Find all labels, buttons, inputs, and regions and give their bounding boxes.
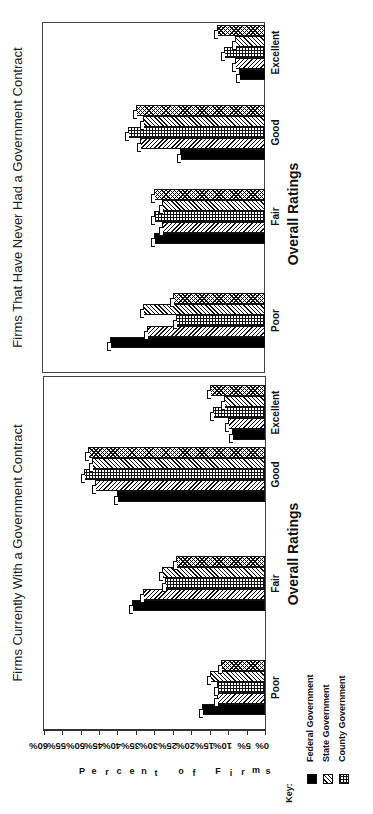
value-axis-title-letter: e	[129, 766, 134, 776]
bar-3d-top	[210, 412, 214, 421]
bar-currently-poor-s1	[202, 704, 265, 715]
value-axis-title-letter: c	[117, 766, 122, 776]
value-axis-tick	[247, 730, 248, 735]
category-label-excellent: Excellent	[270, 15, 281, 90]
bar-never-poor-s2	[147, 326, 265, 337]
legend-swatch-federal-government	[307, 774, 317, 784]
bar-3d-top	[207, 676, 211, 685]
value-axis-title-letter: s	[265, 766, 270, 776]
category-label-excellent: Excellent	[270, 375, 281, 450]
value-axis-tick-label: 45%	[84, 741, 103, 752]
bar-never-excellent-s5	[217, 25, 265, 36]
legend-label-state-government: State Government	[321, 684, 331, 762]
bar-never-fair-s5	[154, 189, 265, 200]
category-label-poor: Poor	[270, 650, 281, 725]
category-label-poor: Poor	[270, 283, 281, 358]
bar-never-excellent-s3	[224, 47, 265, 58]
bar-3d-top	[236, 74, 240, 83]
value-axis-tick	[81, 730, 82, 735]
value-axis-title-letter: t	[155, 768, 158, 778]
rotated-chart-canvas: Firms That Have Never Had a Government C…	[0, 0, 373, 814]
bar-3d-top	[162, 583, 166, 592]
value-axis-tick	[62, 730, 63, 735]
bar-never-fair-s3	[154, 211, 265, 222]
value-axis-tick-label: 55%	[47, 741, 66, 752]
bar-currently-fair-s1	[132, 600, 265, 611]
bar-3d-top	[92, 485, 96, 494]
bar-3d-top	[159, 227, 163, 236]
bar-3d-top	[140, 121, 144, 130]
bar-3d-top	[214, 698, 218, 707]
bar-currently-good-s5	[88, 447, 265, 458]
bar-currently-good-s3	[84, 469, 265, 480]
value-axis-tick	[210, 730, 211, 735]
bar-currently-good-s4	[92, 458, 265, 469]
xaxis-title-currently: Overall Ratings	[285, 494, 301, 614]
category-label-fair: Fair	[270, 546, 281, 621]
legend-key-title: Key:	[284, 783, 294, 803]
bar-currently-excellent-s4	[224, 396, 265, 407]
bar-currently-fair-s3	[165, 578, 265, 589]
value-axis-tick	[154, 730, 155, 735]
legend-label-county-government: County Government	[337, 675, 347, 762]
bar-never-poor-s5	[173, 293, 265, 304]
bar-3d-top	[173, 320, 177, 329]
legend-swatch-state-government	[323, 774, 333, 784]
category-label-fair: Fair	[270, 179, 281, 254]
value-axis-tick-label: 15%	[195, 741, 214, 752]
bar-3d-top	[214, 687, 218, 696]
bar-never-good-s5	[136, 105, 265, 116]
value-axis-tick	[44, 730, 45, 735]
bar-never-fair-s1	[154, 233, 265, 244]
bar-3d-top	[177, 154, 181, 163]
bar-3d-top	[159, 205, 163, 214]
bar-currently-poor-s5	[221, 660, 265, 671]
bar-3d-top	[221, 52, 225, 61]
bar-3d-top	[173, 561, 177, 570]
value-axis-title-letter: o	[178, 766, 184, 776]
value-axis-tick	[228, 730, 229, 735]
value-axis-title-letter: r	[241, 767, 245, 777]
value-axis-tick-label: 5%	[237, 741, 251, 752]
legend-label-federal-government: Federal Government	[305, 674, 315, 762]
bar-3d-top	[225, 423, 229, 432]
panel-never-title: Firms That Have Never Had a Government C…	[10, 22, 25, 373]
value-axis-tick	[136, 730, 137, 735]
bar-never-good-s2	[140, 138, 265, 149]
bar-3d-top	[218, 665, 222, 674]
bar-3d-top	[151, 194, 155, 203]
value-axis-tick-label: 50%	[65, 741, 84, 752]
bar-never-excellent-s4	[235, 36, 265, 47]
bar-3d-top	[144, 331, 148, 340]
bar-never-good-s1	[180, 149, 265, 160]
value-axis-tick-label: 35%	[121, 741, 140, 752]
value-axis-title-letter: e	[92, 766, 97, 776]
xaxis-title-never: Overall Ratings	[285, 154, 301, 274]
value-axis-tick	[117, 730, 118, 735]
value-axis-tick-label: 0%	[255, 741, 269, 752]
bar-never-excellent-s2	[235, 58, 265, 69]
bar-currently-poor-s2	[217, 693, 265, 704]
bar-3d-top	[125, 132, 129, 141]
category-label-good: Good	[270, 95, 281, 170]
value-axis-title-letter: P	[79, 766, 85, 776]
bar-currently-excellent-s5	[210, 385, 265, 396]
value-axis-tick-label: 20%	[176, 741, 195, 752]
value-axis-tick-label: 40%	[102, 741, 121, 752]
bar-3d-top	[140, 594, 144, 603]
bar-never-excellent-s1	[239, 69, 265, 80]
value-axis-tick-label: 25%	[158, 741, 177, 752]
bar-never-fair-s2	[162, 222, 265, 233]
bar-currently-poor-s3	[217, 682, 265, 693]
bar-3d-top	[140, 309, 144, 318]
value-axis-title-letter: m	[252, 765, 260, 775]
value-axis-tick-label: 10%	[213, 741, 232, 752]
bar-never-good-s4	[143, 116, 265, 127]
bar-currently-fair-s5	[176, 556, 265, 567]
bar-3d-top	[133, 110, 137, 119]
value-axis-tick-label: 30%	[139, 741, 158, 752]
value-axis-tick	[265, 730, 266, 735]
bar-3d-top	[214, 30, 218, 39]
bar-3d-top	[129, 605, 133, 614]
bar-3d-top	[232, 63, 236, 72]
